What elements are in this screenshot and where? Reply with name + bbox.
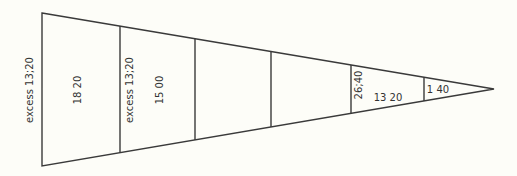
label-outer-left: excess 13;20 xyxy=(24,57,35,123)
wedge-diagram: excess 13;20 18 20 excess 13;20 15 00 26… xyxy=(0,0,517,176)
label-seg6: 1 40 xyxy=(427,84,449,95)
label-seg2: 15 00 xyxy=(154,76,165,105)
label-seg1: 18 20 xyxy=(72,76,83,105)
label-seg2-left: excess 13;20 xyxy=(124,57,135,123)
label-seg5: 13 20 xyxy=(374,92,403,103)
label-seg5-left: 26;40 xyxy=(353,71,364,100)
